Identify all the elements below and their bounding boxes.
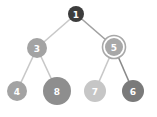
node-label: 5	[111, 43, 117, 53]
tree-node-3[interactable]: 3	[27, 38, 47, 58]
node-label: 4	[14, 87, 20, 97]
tree-node-7[interactable]: 7	[84, 80, 106, 102]
node-label: 8	[54, 87, 60, 97]
tree-node-8[interactable]: 8	[43, 77, 71, 105]
tree-node-4[interactable]: 4	[7, 81, 27, 101]
tree-node-5[interactable]: 5	[103, 36, 126, 59]
node-label: 7	[92, 87, 98, 97]
tree-node-1[interactable]: 1	[68, 6, 84, 22]
tree-nodes: 1354876	[7, 6, 144, 105]
node-label: 1	[73, 10, 79, 20]
tree-node-6[interactable]: 6	[122, 80, 144, 102]
node-label: 6	[130, 87, 136, 97]
tree-diagram: 1354876	[0, 0, 157, 117]
node-label: 3	[34, 44, 40, 54]
